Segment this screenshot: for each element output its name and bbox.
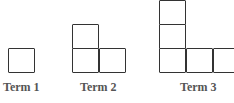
term-2-square (72, 48, 99, 73)
term-1-label: Term 1 (3, 80, 40, 95)
term-2-label: Term 2 (80, 80, 117, 95)
term-1-square (8, 48, 35, 73)
term-3-square (186, 48, 213, 73)
term-2-square (72, 24, 99, 49)
term-3-square (159, 48, 186, 73)
term-3-square (159, 0, 186, 25)
term-3-square (213, 48, 234, 73)
term-2-square (99, 48, 126, 73)
term-3-label: Term 3 (180, 80, 217, 95)
term-3-square (159, 24, 186, 49)
